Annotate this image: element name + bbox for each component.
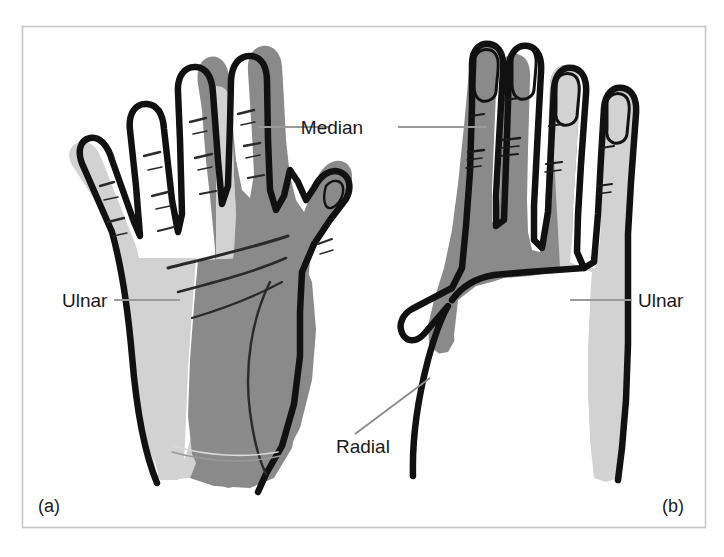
label-ulnar-right: Ulnar: [638, 290, 684, 311]
panel-label-b: (b): [662, 496, 684, 516]
label-ulnar-left: Ulnar: [62, 290, 108, 311]
hand-nerve-distribution-figure: Median Ulnar Ulnar Radial (a) (b): [0, 0, 724, 557]
label-radial: Radial: [336, 436, 390, 457]
dorsal-radial-territory: [454, 274, 592, 478]
label-median: Median: [301, 117, 363, 138]
panel-label-a: (a): [38, 496, 60, 516]
